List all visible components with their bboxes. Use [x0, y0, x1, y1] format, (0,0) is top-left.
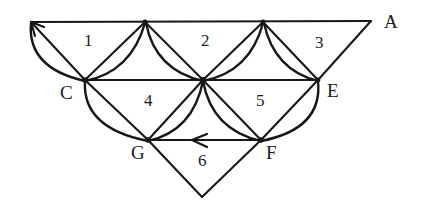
edge-b2-to-e [263, 22, 318, 80]
point-label-f: F [266, 143, 277, 162]
edge-top-horizontal [31, 21, 371, 22]
vertex-g-dot [145, 137, 150, 142]
point-label-a: A [384, 12, 398, 31]
point-label-g: G [131, 143, 145, 162]
edge-g-to-bottom [148, 140, 202, 197]
point-label-e: E [327, 81, 339, 100]
edge-d-to-g [148, 80, 203, 140]
edge-f-to-bottom [202, 140, 261, 197]
vertex-e-dot [316, 78, 321, 83]
figure-canvas [0, 0, 421, 209]
geometry-diagram: A C E G F 1 2 3 4 5 6 [0, 0, 421, 209]
region-label-6: 6 [198, 152, 207, 169]
vertex-d-dot [200, 77, 206, 83]
region-label-3: 3 [315, 34, 324, 51]
region-label-2: 2 [201, 32, 210, 49]
vertex-c-dot [82, 77, 87, 82]
vertex-b1-dot [143, 20, 148, 25]
vertex-f-dot [258, 137, 263, 142]
vertex-b2-dot [261, 20, 266, 25]
edge-a-to-e [318, 21, 371, 80]
region-label-4: 4 [144, 92, 153, 109]
arrow-heads [31, 22, 207, 147]
arc-edges [31, 23, 319, 141]
region-label-1: 1 [84, 32, 93, 49]
edge-b1-to-d [145, 22, 203, 80]
edge-b1-to-c [85, 22, 145, 80]
region-label-5: 5 [256, 92, 265, 109]
point-label-c: C [60, 83, 73, 102]
edge-b2-to-d [203, 22, 263, 80]
edge-d-to-f [203, 80, 261, 140]
